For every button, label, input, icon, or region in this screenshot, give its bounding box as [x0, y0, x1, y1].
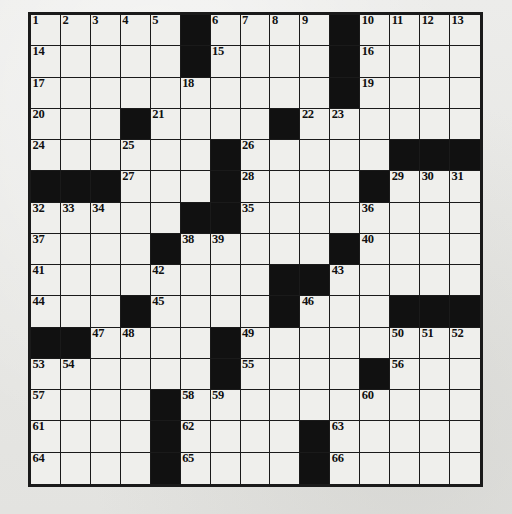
letter-square[interactable] [420, 78, 450, 109]
letter-square[interactable] [121, 203, 151, 234]
letter-square[interactable]: 55 [241, 359, 271, 390]
letter-square[interactable] [330, 390, 360, 421]
letter-square[interactable] [390, 46, 420, 77]
letter-square[interactable]: 54 [61, 359, 91, 390]
letter-square[interactable]: 10 [360, 15, 390, 46]
letter-square[interactable]: 26 [241, 140, 271, 171]
letter-square[interactable] [390, 390, 420, 421]
letter-square[interactable] [151, 328, 181, 359]
letter-square[interactable] [241, 234, 271, 265]
letter-square[interactable]: 8 [270, 15, 300, 46]
letter-square[interactable]: 15 [211, 46, 241, 77]
letter-square[interactable]: 44 [31, 296, 61, 327]
letter-square[interactable]: 12 [420, 15, 450, 46]
letter-square[interactable] [121, 265, 151, 296]
letter-square[interactable] [420, 265, 450, 296]
letter-square[interactable] [211, 109, 241, 140]
letter-square[interactable] [151, 203, 181, 234]
letter-square[interactable] [270, 171, 300, 202]
letter-square[interactable]: 38 [181, 234, 211, 265]
letter-square[interactable] [61, 46, 91, 77]
letter-square[interactable] [420, 359, 450, 390]
letter-square[interactable]: 39 [211, 234, 241, 265]
letter-square[interactable] [360, 296, 390, 327]
letter-square[interactable] [91, 140, 121, 171]
letter-square[interactable]: 30 [420, 171, 450, 202]
letter-square[interactable] [330, 359, 360, 390]
letter-square[interactable] [300, 140, 330, 171]
letter-square[interactable] [61, 234, 91, 265]
letter-square[interactable]: 35 [241, 203, 271, 234]
letter-square[interactable] [151, 78, 181, 109]
letter-square[interactable] [181, 359, 211, 390]
letter-square[interactable] [330, 328, 360, 359]
letter-square[interactable] [241, 109, 271, 140]
letter-square[interactable] [300, 234, 330, 265]
letter-square[interactable] [270, 328, 300, 359]
letter-square[interactable] [61, 265, 91, 296]
letter-square[interactable]: 24 [31, 140, 61, 171]
letter-square[interactable] [241, 78, 271, 109]
letter-square[interactable] [91, 78, 121, 109]
letter-square[interactable]: 2 [61, 15, 91, 46]
letter-square[interactable] [121, 78, 151, 109]
letter-square[interactable] [390, 234, 420, 265]
letter-square[interactable]: 4 [121, 15, 151, 46]
letter-square[interactable]: 20 [31, 109, 61, 140]
letter-square[interactable]: 7 [241, 15, 271, 46]
letter-square[interactable] [181, 171, 211, 202]
letter-square[interactable] [181, 265, 211, 296]
letter-square[interactable]: 18 [181, 78, 211, 109]
letter-square[interactable] [151, 46, 181, 77]
letter-square[interactable] [300, 390, 330, 421]
letter-square[interactable] [91, 296, 121, 327]
letter-square[interactable]: 21 [151, 109, 181, 140]
letter-square[interactable] [420, 390, 450, 421]
letter-square[interactable]: 65 [181, 453, 211, 484]
letter-square[interactable]: 58 [181, 390, 211, 421]
letter-square[interactable] [420, 109, 450, 140]
letter-square[interactable] [91, 453, 121, 484]
letter-square[interactable] [450, 359, 480, 390]
letter-square[interactable] [360, 421, 390, 452]
letter-square[interactable] [151, 140, 181, 171]
letter-square[interactable]: 57 [31, 390, 61, 421]
letter-square[interactable]: 29 [390, 171, 420, 202]
letter-square[interactable] [360, 328, 390, 359]
letter-square[interactable] [241, 390, 271, 421]
letter-square[interactable] [330, 171, 360, 202]
letter-square[interactable]: 49 [241, 328, 271, 359]
letter-square[interactable] [241, 46, 271, 77]
letter-square[interactable]: 11 [390, 15, 420, 46]
letter-square[interactable] [300, 328, 330, 359]
letter-square[interactable] [91, 109, 121, 140]
letter-square[interactable] [211, 453, 241, 484]
letter-square[interactable] [450, 453, 480, 484]
letter-square[interactable] [91, 390, 121, 421]
letter-square[interactable]: 5 [151, 15, 181, 46]
letter-square[interactable] [121, 46, 151, 77]
letter-square[interactable] [270, 359, 300, 390]
letter-square[interactable]: 52 [450, 328, 480, 359]
letter-square[interactable]: 9 [300, 15, 330, 46]
letter-square[interactable] [390, 265, 420, 296]
letter-square[interactable] [300, 359, 330, 390]
letter-square[interactable] [91, 265, 121, 296]
letter-square[interactable] [300, 46, 330, 77]
letter-square[interactable]: 66 [330, 453, 360, 484]
letter-square[interactable]: 64 [31, 453, 61, 484]
letter-square[interactable]: 51 [420, 328, 450, 359]
letter-square[interactable] [61, 421, 91, 452]
letter-square[interactable] [181, 296, 211, 327]
letter-square[interactable] [420, 421, 450, 452]
letter-square[interactable] [241, 265, 271, 296]
letter-square[interactable] [360, 265, 390, 296]
letter-square[interactable] [450, 46, 480, 77]
letter-square[interactable] [121, 359, 151, 390]
letter-square[interactable]: 63 [330, 421, 360, 452]
letter-square[interactable]: 25 [121, 140, 151, 171]
letter-square[interactable] [61, 140, 91, 171]
crossword-grid[interactable]: 1234567891011121314151617181920212223242… [28, 12, 483, 487]
letter-square[interactable] [450, 421, 480, 452]
letter-square[interactable]: 33 [61, 203, 91, 234]
